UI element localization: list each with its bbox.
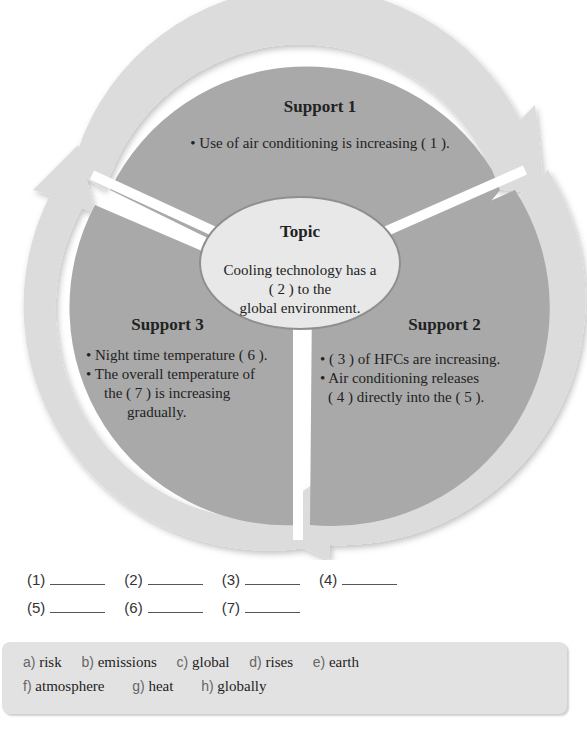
option-word: heat [148,678,173,694]
support1-bullet: • Use of air conditioning is increasing … [120,133,520,153]
support1-title: Support 1 [200,97,440,117]
blank-line[interactable] [245,570,300,585]
option-letter: b) [81,654,93,670]
word-option-b: b) emissions [81,654,156,671]
topic-title: Topic [220,222,380,242]
support3-title: Support 3 [95,315,240,335]
blank-line[interactable] [50,598,105,613]
blank-label: (4) [319,571,337,588]
option-letter: h) [201,678,213,694]
support2-title: Support 2 [372,315,517,335]
blank-label: (3) [222,571,240,588]
blank-label: (7) [222,599,240,616]
blank-line[interactable] [148,570,203,585]
option-letter: f) [23,678,32,694]
option-letter: d) [249,654,261,670]
support2-line-2: • Air conditioning releases [320,368,560,388]
blank-4[interactable]: (4) [319,570,397,588]
support3-line-3: the ( 7 ) is increasing [104,383,334,403]
blank-3[interactable]: (3) [222,570,300,588]
blank-7[interactable]: (7) [222,598,300,616]
word-option-a: a) risk [23,654,62,671]
support2-line-1: • ( 3 ) of HFCs are increasing. [320,349,560,369]
option-word: emissions [98,654,157,670]
blank-line[interactable] [50,570,105,585]
support2-line-3: ( 4 ) directly into the ( 5 ). [328,387,568,407]
option-word: globally [217,678,266,694]
topic-line-1: Cooling technology has a [200,260,400,280]
blank-6[interactable]: (6) [124,598,202,616]
blank-row-1: (1)(2)(3)(4) [27,570,416,588]
blank-label: (5) [27,599,45,616]
blank-1[interactable]: (1) [27,570,105,588]
word-option-d: d) rises [249,654,293,671]
support3-line-1: • Night time temperature ( 6 ). [86,345,316,365]
option-word: earth [329,654,359,670]
support3-line-2: • The overall temperature of [86,364,316,384]
word-option-c: c) global [177,654,230,671]
option-letter: g) [132,678,144,694]
word-bank-row-2: f) atmosphere g) heat h) globally [23,678,283,695]
option-letter: c) [177,654,189,670]
word-bank-row-1: a) risk b) emissions c) global d) rises … [23,654,375,671]
word-option-f: f) atmosphere [23,678,104,695]
word-option-g: g) heat [132,678,173,695]
blank-line[interactable] [245,598,300,613]
blank-2[interactable]: (2) [124,570,202,588]
blank-line[interactable] [342,570,397,585]
support3-line-4: gradually. [127,402,357,422]
blank-5[interactable]: (5) [27,598,105,616]
option-word: global [192,654,230,670]
option-letter: a) [23,654,35,670]
word-option-e: e) earth [313,654,359,671]
topic-line-2: ( 2 ) to the [200,279,400,299]
blank-label: (2) [124,571,142,588]
option-letter: e) [313,654,325,670]
option-word: atmosphere [35,678,104,694]
blank-label: (1) [27,571,45,588]
option-word: risk [39,654,62,670]
word-bank: a) risk b) emissions c) global d) rises … [2,642,567,714]
word-option-h: h) globally [201,678,266,695]
blank-line[interactable] [148,598,203,613]
blank-label: (6) [124,599,142,616]
blank-row-2: (5)(6)(7) [27,598,319,616]
option-word: rises [265,654,293,670]
